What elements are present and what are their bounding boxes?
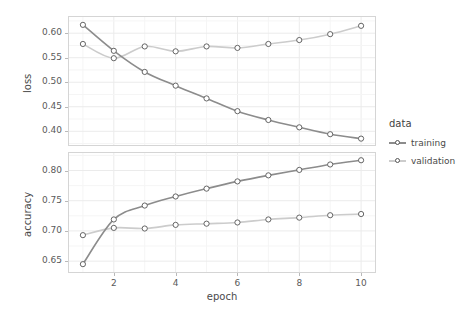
x-tick-label: 2 bbox=[104, 278, 124, 288]
y-tick-label-accuracy: 0.65 bbox=[28, 255, 62, 265]
data-point bbox=[297, 215, 302, 220]
data-point bbox=[358, 136, 363, 141]
data-point bbox=[266, 217, 271, 222]
data-point bbox=[204, 96, 209, 101]
data-point bbox=[142, 203, 147, 208]
legend-label-validation: validation bbox=[411, 156, 455, 166]
data-point bbox=[80, 262, 85, 267]
y-tick-mark bbox=[65, 131, 68, 132]
legend: data training validation bbox=[389, 118, 455, 171]
x-tick-label: 8 bbox=[289, 278, 309, 288]
x-axis-title-epoch: epoch bbox=[68, 291, 376, 302]
legend-label-training: training bbox=[411, 138, 446, 148]
y-tick-mark bbox=[65, 58, 68, 59]
x-tick-mark bbox=[176, 273, 177, 276]
data-point bbox=[358, 211, 363, 216]
data-point bbox=[173, 222, 178, 227]
y-tick-mark bbox=[65, 231, 68, 232]
y-tick-label-loss: 0.55 bbox=[28, 52, 62, 62]
data-point bbox=[111, 48, 116, 53]
data-point bbox=[328, 162, 333, 167]
data-point bbox=[80, 22, 85, 27]
legend-item-training[interactable]: training bbox=[389, 135, 455, 151]
x-tick-label: 4 bbox=[166, 278, 186, 288]
legend-title: data bbox=[389, 118, 455, 129]
y-tick-label-loss: 0.40 bbox=[28, 125, 62, 135]
data-point bbox=[235, 179, 240, 184]
series-line-training bbox=[83, 160, 361, 264]
data-point bbox=[142, 226, 147, 231]
y-tick-label-accuracy: 0.70 bbox=[28, 225, 62, 235]
x-tick-mark bbox=[299, 273, 300, 276]
data-point bbox=[297, 37, 302, 42]
legend-key-validation-icon bbox=[389, 154, 406, 168]
chart-root: loss accuracy 0.400.450.500.550.600.650.… bbox=[0, 0, 464, 313]
y-tick-mark bbox=[65, 171, 68, 172]
data-point bbox=[328, 32, 333, 37]
data-point bbox=[358, 23, 363, 28]
data-point bbox=[235, 220, 240, 225]
y-tick-mark bbox=[65, 201, 68, 202]
series-line-validation bbox=[83, 214, 361, 235]
data-point bbox=[111, 225, 116, 230]
data-point bbox=[358, 158, 363, 163]
plot-area-loss bbox=[69, 17, 375, 145]
legend-item-validation[interactable]: validation bbox=[389, 153, 455, 169]
data-point bbox=[173, 49, 178, 54]
data-point bbox=[328, 213, 333, 218]
panel-loss bbox=[68, 16, 376, 146]
data-point bbox=[266, 173, 271, 178]
data-point bbox=[266, 41, 271, 46]
data-point bbox=[204, 186, 209, 191]
y-tick-mark bbox=[65, 33, 68, 34]
x-tick-mark bbox=[237, 273, 238, 276]
data-point bbox=[173, 83, 178, 88]
data-point bbox=[111, 56, 116, 61]
data-point bbox=[328, 132, 333, 137]
y-tick-label-loss: 0.50 bbox=[28, 76, 62, 86]
data-point bbox=[173, 194, 178, 199]
data-point bbox=[235, 45, 240, 50]
data-point bbox=[111, 217, 116, 222]
x-tick-label: 6 bbox=[227, 278, 247, 288]
data-point bbox=[235, 109, 240, 114]
data-point bbox=[80, 233, 85, 238]
y-tick-label-accuracy: 0.80 bbox=[28, 165, 62, 175]
data-point bbox=[204, 44, 209, 49]
y-tick-mark bbox=[65, 261, 68, 262]
legend-key-training-icon bbox=[389, 136, 406, 150]
y-tick-mark bbox=[65, 82, 68, 83]
data-point bbox=[297, 125, 302, 130]
x-tick-mark bbox=[361, 273, 362, 276]
plot-area-accuracy bbox=[69, 153, 375, 272]
y-tick-label-loss: 0.45 bbox=[28, 101, 62, 111]
y-tick-label-loss: 0.60 bbox=[28, 27, 62, 37]
data-point bbox=[297, 167, 302, 172]
panel-accuracy bbox=[68, 152, 376, 273]
data-point bbox=[204, 221, 209, 226]
x-tick-label: 10 bbox=[351, 278, 371, 288]
data-point bbox=[80, 41, 85, 46]
series-line-validation bbox=[83, 26, 361, 58]
data-point bbox=[142, 69, 147, 74]
y-tick-label-accuracy: 0.75 bbox=[28, 195, 62, 205]
y-tick-mark bbox=[65, 107, 68, 108]
x-tick-mark bbox=[114, 273, 115, 276]
data-point bbox=[266, 117, 271, 122]
data-point bbox=[142, 44, 147, 49]
